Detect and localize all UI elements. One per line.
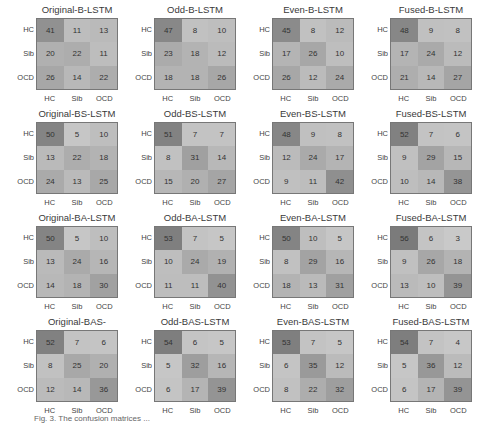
matrix-cell: 12 [326, 19, 353, 42]
y-axis-label: HC [126, 129, 152, 138]
matrix-cell: 42 [326, 170, 353, 193]
matrix-cell: 56 [391, 227, 418, 250]
x-axis-labels: HCSibOCD [154, 198, 236, 207]
matrix-cell: 5 [208, 227, 235, 250]
matrix-grid: 45812172610261224 [272, 18, 354, 90]
x-axis-label: HC [272, 198, 299, 207]
x-axis-label: HC [154, 406, 181, 415]
matrix-cell: 13 [391, 274, 418, 297]
matrix-cell: 51 [155, 123, 182, 146]
panel-title: Fused-BAS-LSTM [354, 316, 472, 327]
matrix-cell: 40 [208, 274, 235, 297]
x-axis-label: Sib [417, 406, 444, 415]
y-axis-label: OCD [362, 177, 388, 186]
matrix-cell: 10 [418, 274, 445, 297]
x-axis-label: Sib [181, 302, 208, 311]
x-axis-label: HC [154, 94, 181, 103]
matrix-cell: 54 [391, 331, 418, 354]
matrix-cell: 8 [273, 250, 300, 273]
matrix-cell: 14 [64, 66, 91, 89]
panel-title: Even-BS-LSTM [236, 108, 354, 119]
x-axis-labels: HCSibOCD [154, 94, 236, 103]
y-axis-label: OCD [126, 385, 152, 394]
y-axis-label: HC [126, 233, 152, 242]
x-axis-label: HC [272, 406, 299, 415]
matrix-cell: 14 [64, 378, 91, 401]
matrix-grid: 50510132416141830 [36, 226, 118, 298]
matrix-cell: 7 [418, 331, 445, 354]
x-axis-label: Sib [299, 198, 326, 207]
y-axis-label: Sib [362, 153, 388, 162]
y-axis-label: HC [244, 233, 270, 242]
x-axis-label: OCD [327, 198, 354, 207]
matrix-cell: 18 [182, 66, 209, 89]
confusion-matrix-panel: Even-B-LSTM45812172610261224HCSibOCDHCSi… [236, 4, 354, 108]
panel-title: Even-B-LSTM [236, 4, 354, 15]
x-axis-labels: HCSibOCD [272, 302, 354, 311]
matrix-cell: 19 [208, 250, 235, 273]
x-axis-labels: HCSibOCD [154, 406, 236, 415]
matrix-cell: 10 [155, 250, 182, 273]
matrix-cell: 50 [273, 227, 300, 250]
matrix-cell: 18 [444, 250, 471, 273]
matrix-cell: 7 [182, 123, 209, 146]
matrix-cell: 26 [418, 250, 445, 273]
matrix-cell: 39 [444, 274, 471, 297]
x-axis-label: HC [154, 302, 181, 311]
matrix-cell: 17 [391, 42, 418, 65]
matrix-cell: 6 [391, 378, 418, 401]
y-axis-label: HC [8, 337, 34, 346]
x-axis-label: HC [36, 94, 63, 103]
matrix-cell: 13 [90, 19, 117, 42]
matrix-cell: 35 [300, 354, 327, 377]
matrix-cell: 9 [391, 146, 418, 169]
panel-title: Odd-B-LSTM [118, 4, 236, 15]
matrix-cell: 25 [64, 354, 91, 377]
matrix-cell: 41 [37, 19, 64, 42]
x-axis-label: OCD [445, 94, 472, 103]
x-axis-label: Sib [299, 94, 326, 103]
x-axis-labels: HCSibOCD [390, 94, 472, 103]
y-axis-label: Sib [8, 49, 34, 58]
matrix-cell: 50 [37, 227, 64, 250]
matrix-grid: 4898172412211427 [390, 18, 472, 90]
x-axis-label: HC [390, 94, 417, 103]
confusion-matrix-panel: Original-BS-LSTM50510132218241325HCSibOC… [0, 108, 118, 212]
panel-title: Odd-BS-LSTM [118, 108, 236, 119]
matrix-cell: 5 [326, 331, 353, 354]
matrix-cell: 52 [37, 331, 64, 354]
matrix-cell: 3 [444, 227, 471, 250]
x-axis-label: Sib [417, 302, 444, 311]
matrix-cell: 11 [64, 19, 91, 42]
matrix-cell: 50 [37, 123, 64, 146]
matrix-cell: 17 [326, 146, 353, 169]
y-axis-label: Sib [244, 361, 270, 370]
y-axis-label: OCD [126, 281, 152, 290]
matrix-cell: 16 [326, 250, 353, 273]
y-axis-label: OCD [244, 177, 270, 186]
matrix-cell: 7 [64, 331, 91, 354]
matrix-cell: 22 [64, 42, 91, 65]
matrix-cell: 18 [155, 66, 182, 89]
matrix-cell: 7 [182, 227, 209, 250]
matrix-cell: 24 [64, 250, 91, 273]
matrix-cell: 24 [182, 250, 209, 273]
panel-title: Odd-BAS-LSTM [118, 316, 236, 327]
y-axis-label: Sib [362, 49, 388, 58]
panel-title: Fused-B-LSTM [354, 4, 472, 15]
x-axis-labels: HCSibOCD [272, 406, 354, 415]
matrix-cell: 24 [300, 146, 327, 169]
y-axis-label: Sib [126, 153, 152, 162]
y-axis-label: OCD [362, 73, 388, 82]
matrix-cell: 5 [64, 123, 91, 146]
matrix-cell: 22 [64, 146, 91, 169]
matrix-cell: 39 [208, 378, 235, 401]
matrix-cell: 31 [182, 146, 209, 169]
matrix-grid: 54655321661739 [154, 330, 236, 402]
y-axis-label: Sib [126, 257, 152, 266]
matrix-cell: 5 [208, 331, 235, 354]
matrix-cell: 10 [90, 123, 117, 146]
matrix-cell: 20 [182, 170, 209, 193]
y-axis-label: Sib [8, 361, 34, 370]
y-axis-label: HC [244, 25, 270, 34]
